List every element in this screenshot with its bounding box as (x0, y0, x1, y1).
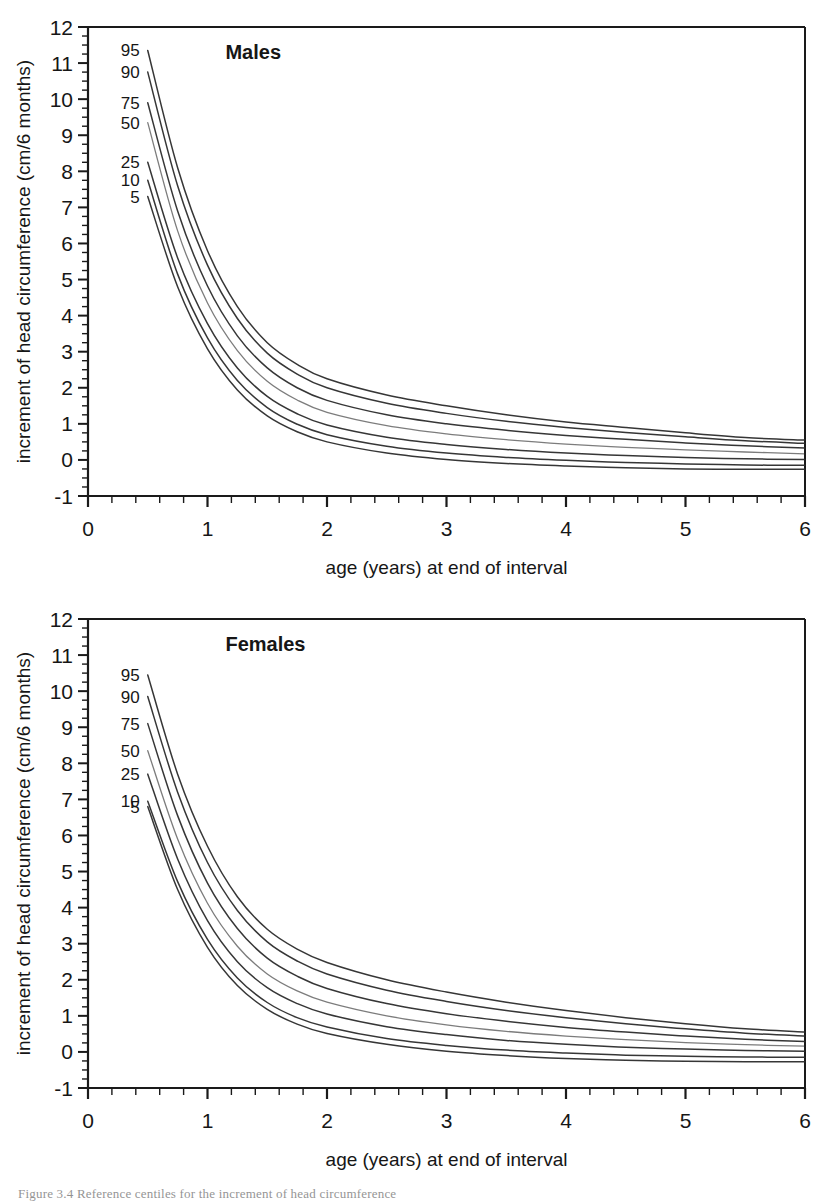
y-tick-label: 10 (50, 88, 73, 111)
y-tick-label: 9 (61, 124, 73, 147)
y-tick-label: 2 (61, 968, 73, 991)
y-tick-label: 1 (61, 412, 73, 435)
y-tick-label: 11 (51, 52, 73, 75)
x-tick-label: 0 (82, 517, 94, 540)
y-tick-label: 7 (61, 196, 73, 219)
percentile-curve (148, 180, 805, 465)
y-tick-label: 5 (61, 268, 73, 291)
y-tick-label: 2 (61, 376, 73, 399)
percentile-curve (148, 162, 805, 459)
y-tick-label: 8 (61, 160, 73, 183)
y-tick-label: 6 (61, 232, 73, 255)
percentile-label: 75 (121, 94, 140, 113)
y-tick-label: 7 (61, 788, 73, 811)
percentile-curve (148, 675, 805, 1032)
x-tick-label: 6 (799, 517, 811, 540)
females-plot-area: -101234567891011120123456age (years) at … (13, 608, 811, 1171)
y-tick-label: 3 (61, 340, 73, 363)
percentile-curve (148, 72, 805, 443)
percentile-curve (148, 807, 805, 1062)
y-tick-label: 3 (61, 932, 73, 955)
percentile-label: 75 (121, 715, 140, 734)
y-tick-label: 4 (61, 304, 73, 327)
percentile-curve (148, 774, 805, 1051)
y-tick-label: 12 (50, 16, 73, 39)
x-tick-label: 2 (321, 1109, 333, 1132)
males-chart-svg: -101234567891011120123456age (years) at … (0, 0, 819, 600)
percentile-label: 90 (121, 688, 140, 707)
x-axis-title: age (years) at end of interval (326, 1149, 568, 1170)
percentile-curve (148, 801, 805, 1057)
percentile-label: 90 (121, 63, 140, 82)
percentile-label: 25 (121, 765, 140, 784)
x-tick-label: 1 (202, 517, 214, 540)
y-tick-label: 4 (61, 896, 73, 919)
percentile-curve (148, 123, 805, 454)
percentile-curve (148, 751, 805, 1046)
percentile-label: 50 (121, 114, 140, 133)
y-tick-label: 10 (50, 680, 73, 703)
figure-caption: Figure 3.4 Reference centiles for the in… (18, 1186, 808, 1202)
percentile-label: 95 (121, 41, 140, 60)
chart-panel-females: -101234567891011120123456age (years) at … (0, 592, 819, 1192)
y-tick-label: 0 (61, 1040, 73, 1063)
percentile-label: 5 (130, 798, 139, 817)
y-tick-label: 8 (61, 752, 73, 775)
x-tick-label: 3 (441, 517, 453, 540)
y-tick-label: 1 (61, 1004, 73, 1027)
percentile-label: 95 (121, 666, 140, 685)
panel-title: Females (225, 633, 305, 655)
x-tick-label: 5 (680, 1109, 692, 1132)
percentile-label: 50 (121, 742, 140, 761)
x-tick-label: 4 (560, 517, 572, 540)
y-tick-label: -1 (54, 1077, 73, 1100)
y-tick-label: 6 (61, 824, 73, 847)
percentile-curve (148, 697, 805, 1036)
y-tick-label: 9 (61, 716, 73, 739)
y-tick-label: 0 (61, 448, 73, 471)
x-axis-title: age (years) at end of interval (326, 557, 568, 578)
females-chart-svg: -101234567891011120123456age (years) at … (0, 592, 819, 1192)
percentile-curve (148, 50, 805, 440)
y-axis-title: increment of head circumference (cm/6 mo… (13, 60, 34, 463)
percentile-curve (148, 197, 805, 470)
panel-title: Males (225, 41, 281, 63)
x-tick-label: 1 (202, 1109, 214, 1132)
chart-panel-males: -101234567891011120123456age (years) at … (0, 0, 819, 600)
percentile-label: 5 (130, 188, 139, 207)
y-axis-title: increment of head circumference (cm/6 mo… (13, 652, 34, 1055)
males-plot-area: -101234567891011120123456age (years) at … (13, 16, 811, 579)
y-tick-label: -1 (54, 485, 73, 508)
x-tick-label: 4 (560, 1109, 572, 1132)
x-tick-label: 5 (680, 517, 692, 540)
x-tick-label: 6 (799, 1109, 811, 1132)
x-tick-label: 0 (82, 1109, 94, 1132)
y-tick-label: 5 (61, 860, 73, 883)
percentile-label: 25 (121, 153, 140, 172)
x-tick-label: 3 (441, 1109, 453, 1132)
y-tick-label: 12 (50, 608, 73, 631)
percentile-curve (148, 103, 805, 448)
x-tick-label: 2 (321, 517, 333, 540)
y-tick-label: 11 (51, 644, 73, 667)
